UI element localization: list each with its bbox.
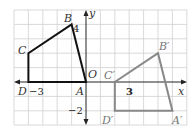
vertex-label-B-prime: B′ [158, 40, 170, 53]
vertex-label-A-prime: A′ [171, 114, 183, 127]
tick-label-y-neg2: −2 [68, 105, 83, 116]
tick-label-x-3: 3 [126, 86, 133, 97]
vertex-label-B: B [63, 12, 72, 25]
origin-label: O [88, 68, 97, 81]
axis-label-x: x [178, 85, 185, 98]
vertex-label-A: A [75, 85, 84, 98]
tick-label-x-neg3: −3 [29, 86, 44, 97]
x-axis-arrow-right [181, 80, 187, 85]
axis-label-y: y [88, 7, 96, 20]
tick-label-y-4: 4 [73, 23, 79, 34]
vertex-label-C-prime: C′ [104, 69, 115, 82]
y-axis-arrow-up [84, 10, 89, 16]
vertex-label-D-prime: D′ [101, 114, 114, 127]
x-axis-arrow-left [14, 80, 20, 85]
vertex-label-C: C [18, 44, 27, 57]
vertex-label-D: D [17, 85, 27, 98]
y-axis-arrow-down [84, 119, 89, 125]
coordinate-plane: B 4 y C D −3 A O −2 C′ B′ 3 x D′ A′ [0, 0, 193, 130]
